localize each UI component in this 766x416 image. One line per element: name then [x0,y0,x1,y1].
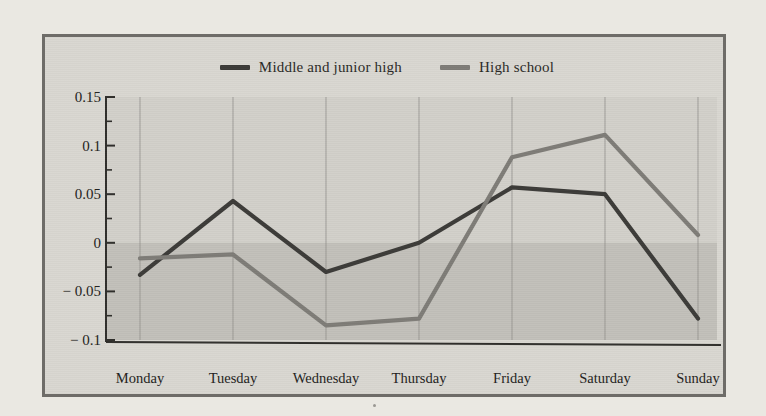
x-tick-label-wednesday: Wednesday [293,370,359,387]
x-axis-tick-labels: MondayTuesdayWednesdayThursdayFridaySatu… [45,370,729,392]
chart-legend: Middle and junior highHigh school [45,59,729,76]
legend-item-0[interactable]: Middle and junior high [220,59,402,76]
y-tick-label: − 0.1 [70,332,101,349]
x-tick-label-thursday: Thursday [392,370,447,387]
line-chart-svg [45,37,729,400]
y-tick-label: 0.05 [75,186,101,203]
chart-plot-area: 0.150.10.050− 0.05− 0.1 MondayTuesdayWed… [45,37,729,400]
legend-label: High school [479,59,554,76]
y-axis-tick-labels: 0.150.10.050− 0.05− 0.1 [45,37,107,400]
x-tick-label-saturday: Saturday [579,370,631,387]
x-tick-label-monday: Monday [116,370,164,387]
legend-label: Middle and junior high [259,59,402,76]
legend-swatch-icon [220,65,250,70]
legend-swatch-icon [440,65,470,70]
x-tick-label-friday: Friday [493,370,531,387]
y-tick-label: 0 [94,234,102,251]
legend-item-1[interactable]: High school [440,59,554,76]
chart-frame: 0.150.10.050− 0.05− 0.1 MondayTuesdayWed… [42,34,726,397]
x-tick-label-tuesday: Tuesday [209,370,258,387]
y-tick-label: − 0.05 [63,283,101,300]
x-axis-line [106,342,721,345]
x-tick-label-sunday: Sunday [676,370,720,387]
page-artifact-dot [373,404,376,407]
y-tick-label: 0.15 [75,89,101,106]
y-tick-label: 0.1 [82,137,101,154]
